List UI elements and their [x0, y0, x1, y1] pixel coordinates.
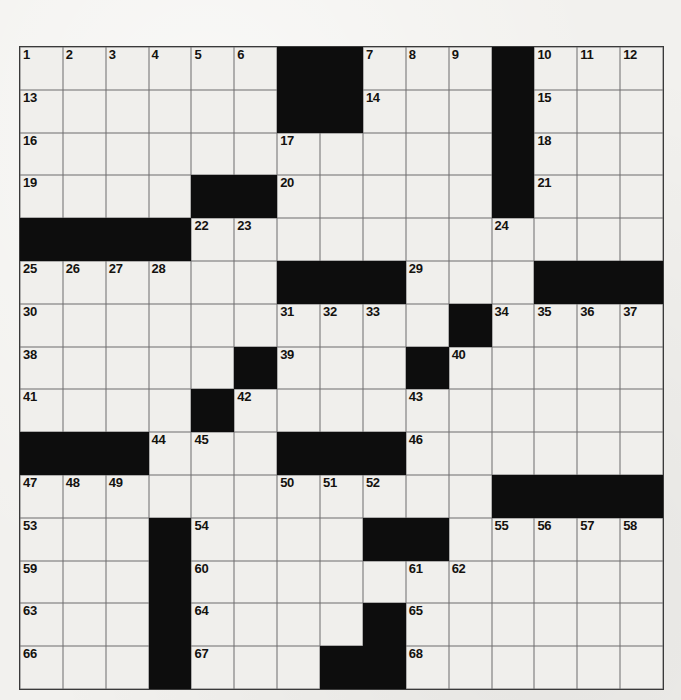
- letter-cell[interactable]: [449, 518, 492, 561]
- letter-cell[interactable]: [577, 133, 620, 176]
- letter-cell[interactable]: [620, 133, 663, 176]
- letter-cell[interactable]: [320, 561, 363, 604]
- letter-cell[interactable]: 45: [191, 432, 234, 475]
- letter-cell[interactable]: [277, 603, 320, 646]
- letter-cell[interactable]: 10: [534, 47, 577, 90]
- letter-cell[interactable]: [149, 133, 192, 176]
- letter-cell[interactable]: [449, 432, 492, 475]
- letter-cell[interactable]: [191, 261, 234, 304]
- letter-cell[interactable]: [534, 218, 577, 261]
- letter-cell[interactable]: [620, 432, 663, 475]
- letter-cell[interactable]: [406, 304, 449, 347]
- letter-cell[interactable]: 11: [577, 47, 620, 90]
- letter-cell[interactable]: [449, 218, 492, 261]
- letter-cell[interactable]: [534, 603, 577, 646]
- letter-cell[interactable]: 48: [63, 475, 106, 518]
- letter-cell[interactable]: [577, 90, 620, 133]
- letter-cell[interactable]: 41: [20, 389, 63, 432]
- letter-cell[interactable]: [277, 389, 320, 432]
- letter-cell[interactable]: [234, 90, 277, 133]
- letter-cell[interactable]: [234, 133, 277, 176]
- letter-cell[interactable]: 65: [406, 603, 449, 646]
- letter-cell[interactable]: 16: [20, 133, 63, 176]
- letter-cell[interactable]: 40: [449, 347, 492, 390]
- letter-cell[interactable]: [406, 475, 449, 518]
- letter-cell[interactable]: 61: [406, 561, 449, 604]
- letter-cell[interactable]: 60: [191, 561, 234, 604]
- letter-cell[interactable]: [320, 175, 363, 218]
- letter-cell[interactable]: 31: [277, 304, 320, 347]
- letter-cell[interactable]: 19: [20, 175, 63, 218]
- letter-cell[interactable]: [149, 347, 192, 390]
- letter-cell[interactable]: 24: [492, 218, 535, 261]
- letter-cell[interactable]: [406, 133, 449, 176]
- letter-cell[interactable]: [63, 133, 106, 176]
- letter-cell[interactable]: [234, 646, 277, 689]
- letter-cell[interactable]: [149, 90, 192, 133]
- letter-cell[interactable]: [620, 561, 663, 604]
- letter-cell[interactable]: [492, 561, 535, 604]
- letter-cell[interactable]: [63, 561, 106, 604]
- letter-cell[interactable]: 52: [363, 475, 406, 518]
- letter-cell[interactable]: 20: [277, 175, 320, 218]
- letter-cell[interactable]: 8: [406, 47, 449, 90]
- letter-cell[interactable]: [234, 603, 277, 646]
- letter-cell[interactable]: [406, 175, 449, 218]
- letter-cell[interactable]: 7: [363, 47, 406, 90]
- letter-cell[interactable]: 1: [20, 47, 63, 90]
- letter-cell[interactable]: 47: [20, 475, 63, 518]
- letter-cell[interactable]: 62: [449, 561, 492, 604]
- letter-cell[interactable]: [277, 561, 320, 604]
- letter-cell[interactable]: [449, 90, 492, 133]
- letter-cell[interactable]: [620, 347, 663, 390]
- letter-cell[interactable]: [620, 218, 663, 261]
- letter-cell[interactable]: 49: [106, 475, 149, 518]
- letter-cell[interactable]: 2: [63, 47, 106, 90]
- letter-cell[interactable]: [363, 389, 406, 432]
- letter-cell[interactable]: [492, 389, 535, 432]
- letter-cell[interactable]: [492, 646, 535, 689]
- letter-cell[interactable]: [534, 347, 577, 390]
- letter-cell[interactable]: [449, 261, 492, 304]
- letter-cell[interactable]: [106, 389, 149, 432]
- letter-cell[interactable]: 15: [534, 90, 577, 133]
- letter-cell[interactable]: 13: [20, 90, 63, 133]
- letter-cell[interactable]: [577, 218, 620, 261]
- letter-cell[interactable]: 27: [106, 261, 149, 304]
- letter-cell[interactable]: 43: [406, 389, 449, 432]
- letter-cell[interactable]: [106, 133, 149, 176]
- letter-cell[interactable]: 44: [149, 432, 192, 475]
- letter-cell[interactable]: [63, 389, 106, 432]
- letter-cell[interactable]: 56: [534, 518, 577, 561]
- letter-cell[interactable]: [406, 218, 449, 261]
- letter-cell[interactable]: [534, 432, 577, 475]
- letter-cell[interactable]: 67: [191, 646, 234, 689]
- letter-cell[interactable]: 28: [149, 261, 192, 304]
- letter-cell[interactable]: [63, 603, 106, 646]
- letter-cell[interactable]: [492, 603, 535, 646]
- letter-cell[interactable]: 14: [363, 90, 406, 133]
- letter-cell[interactable]: 38: [20, 347, 63, 390]
- letter-cell[interactable]: 68: [406, 646, 449, 689]
- letter-cell[interactable]: [106, 561, 149, 604]
- letter-cell[interactable]: [449, 175, 492, 218]
- letter-cell[interactable]: [191, 475, 234, 518]
- letter-cell[interactable]: [63, 90, 106, 133]
- letter-cell[interactable]: [106, 304, 149, 347]
- letter-cell[interactable]: [363, 561, 406, 604]
- letter-cell[interactable]: [620, 603, 663, 646]
- letter-cell[interactable]: 54: [191, 518, 234, 561]
- letter-cell[interactable]: [492, 432, 535, 475]
- letter-cell[interactable]: [449, 389, 492, 432]
- letter-cell[interactable]: 23: [234, 218, 277, 261]
- letter-cell[interactable]: [277, 218, 320, 261]
- letter-cell[interactable]: 57: [577, 518, 620, 561]
- letter-cell[interactable]: 4: [149, 47, 192, 90]
- letter-cell[interactable]: 26: [63, 261, 106, 304]
- letter-cell[interactable]: 46: [406, 432, 449, 475]
- letter-cell[interactable]: [620, 90, 663, 133]
- letter-cell[interactable]: [106, 646, 149, 689]
- letter-cell[interactable]: 37: [620, 304, 663, 347]
- letter-cell[interactable]: [234, 261, 277, 304]
- letter-cell[interactable]: [191, 347, 234, 390]
